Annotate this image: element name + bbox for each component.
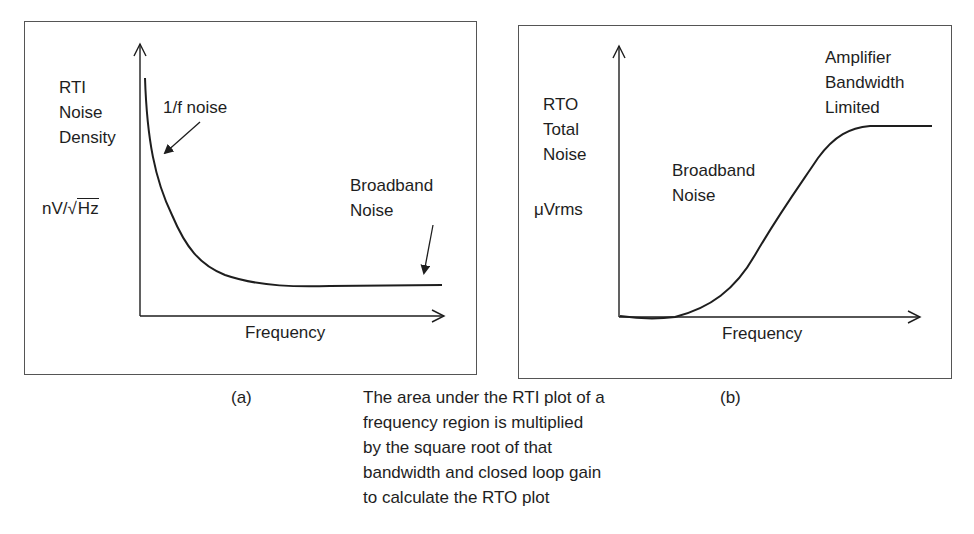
ylabel-line: RTI: [59, 75, 116, 100]
panel-b-xlabel: Frequency: [722, 321, 802, 346]
yunit-prefix: nV/√: [42, 199, 77, 218]
ylabel-line: Density: [59, 125, 116, 150]
panel-a-yunit: nV/√Hz: [42, 196, 99, 221]
caption-line: frequency region is multiplied: [363, 410, 605, 435]
panel-a-annotation-broadband: Broadband Noise: [350, 173, 433, 223]
panel-b-label: (b): [720, 385, 741, 410]
panel-b-yunit: μVrms: [534, 197, 583, 222]
panel-b-noise-curve: [620, 126, 932, 318]
panel-a-label: (a): [231, 385, 252, 410]
panel-a-annotation-1f: 1/f noise: [163, 95, 227, 120]
caption-line: bandwidth and closed loop gain: [363, 460, 605, 485]
ylabel-line: Total: [543, 117, 586, 142]
caption-line: by the square root of that: [363, 435, 605, 460]
yunit-radicand: Hz: [77, 198, 99, 218]
annotation-line: Bandwidth: [825, 70, 904, 95]
panel-b-ylabel: RTO Total Noise: [543, 92, 586, 167]
annotation-line: Amplifier: [825, 45, 904, 70]
annotation-line: Noise: [672, 183, 755, 208]
caption-line: The area under the RTI plot of a: [363, 385, 605, 410]
annotation-line: Broadband: [350, 173, 433, 198]
caption-line: to calculate the RTO plot: [363, 485, 605, 510]
annotation-line: Limited: [825, 95, 904, 120]
panel-a-ylabel: RTI Noise Density: [59, 75, 116, 150]
panel-b-annotation-limited: Amplifier Bandwidth Limited: [825, 45, 904, 120]
annotation-line: Noise: [350, 198, 433, 223]
ylabel-line: Noise: [59, 100, 116, 125]
arrow-broadband-a-icon: [424, 225, 433, 273]
panel-b-annotation-broadband: Broadband Noise: [672, 158, 755, 208]
ylabel-line: Noise: [543, 142, 586, 167]
figure-caption: The area under the RTI plot of a frequen…: [363, 385, 605, 510]
ylabel-line: RTO: [543, 92, 586, 117]
annotation-line: Broadband: [672, 158, 755, 183]
panel-a-xlabel: Frequency: [245, 320, 325, 345]
arrow-1f-noise-icon: [165, 122, 200, 153]
